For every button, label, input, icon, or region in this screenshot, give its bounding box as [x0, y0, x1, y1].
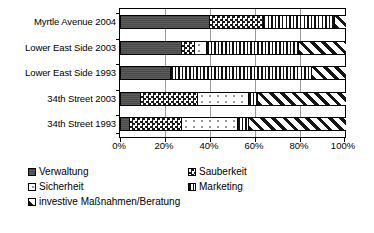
x-tick-label-0: 0% — [112, 140, 126, 151]
bar-track — [120, 66, 345, 80]
chart-legend: Verwaltung Sauberkeit Sicherheit Marketi… — [28, 166, 358, 211]
bar-segment-marketing — [249, 93, 258, 105]
bar-segment-sauberkeit — [130, 118, 182, 130]
x-tick-label-80: 80% — [289, 140, 308, 151]
legend-label-sauberkeit: Sauberkeit — [199, 166, 247, 178]
legend-item-verwaltung: Verwaltung — [28, 166, 88, 178]
y-tick-1 — [116, 39, 120, 40]
bar-segment-investive-ma-nahmen-beratung — [258, 93, 346, 105]
legend-item-investive-massnahmen: investive Maßnahmen/Beratung — [28, 196, 180, 208]
category-label-1: Lower East Side 2003 — [0, 42, 116, 53]
y-tick-0 — [116, 13, 120, 14]
bar-segment-sicherheit — [198, 93, 250, 105]
bar-segment-marketing — [171, 67, 313, 79]
bar-segment-marketing — [238, 118, 249, 130]
x-tick-label-60: 60% — [244, 140, 263, 151]
bar-segment-verwaltung — [121, 67, 171, 79]
category-axis: Myrtle Avenue 2004 Lower East Side 2003 … — [0, 8, 116, 136]
bar-segment-verwaltung — [121, 16, 210, 28]
bar-segment-sauberkeit — [141, 93, 197, 105]
legend-item-marketing: Marketing — [188, 181, 243, 193]
legend-label-sicherheit: Sicherheit — [39, 181, 83, 193]
legend-swatch-sicherheit-icon — [28, 183, 36, 191]
y-tick-5 — [116, 133, 120, 134]
bar-segment-sicherheit — [195, 42, 206, 54]
bar-row — [120, 92, 345, 106]
stacked-bar-chart: Myrtle Avenue 2004 Lower East Side 2003 … — [0, 0, 374, 233]
category-label-4: 34th Street 1993 — [0, 118, 116, 129]
legend-label-verwaltung: Verwaltung — [39, 166, 88, 178]
bar-row — [120, 66, 345, 80]
bar-segment-sicherheit — [182, 118, 238, 130]
bar-row — [120, 117, 345, 131]
bar-segment-marketing — [264, 16, 335, 28]
legend-label-marketing: Marketing — [199, 181, 243, 193]
bar-row — [120, 15, 345, 29]
category-label-3: 34th Street 2003 — [0, 93, 116, 104]
bar-track — [120, 41, 345, 55]
bar-track — [120, 117, 345, 131]
bar-segment-sauberkeit — [182, 42, 196, 54]
category-label-0: Myrtle Avenue 2004 — [0, 16, 116, 27]
category-label-2: Lower East Side 1993 — [0, 67, 116, 78]
y-tick-4 — [116, 115, 120, 116]
y-tick-2 — [116, 64, 120, 65]
bar-segment-investive-ma-nahmen-beratung — [299, 42, 346, 54]
bar-segment-sauberkeit — [210, 16, 264, 28]
legend-item-sauberkeit: Sauberkeit — [188, 166, 247, 178]
bar-segment-verwaltung — [121, 42, 182, 54]
legend-swatch-investive-icon — [28, 198, 36, 206]
bar-segment-investive-ma-nahmen-beratung — [335, 16, 346, 28]
legend-swatch-verwaltung-icon — [28, 168, 36, 176]
bar-segment-investive-ma-nahmen-beratung — [249, 118, 346, 130]
bar-row — [120, 41, 345, 55]
y-tick-3 — [116, 90, 120, 91]
bar-track — [120, 15, 345, 29]
legend-item-sicherheit: Sicherheit — [28, 181, 83, 193]
bar-track — [120, 92, 345, 106]
bar-segment-verwaltung — [121, 118, 130, 130]
legend-swatch-sauberkeit-icon — [188, 168, 196, 176]
bar-segment-investive-ma-nahmen-beratung — [312, 67, 346, 79]
x-tick-label-20: 20% — [154, 140, 173, 151]
legend-swatch-marketing-icon — [188, 183, 196, 191]
plot-area — [119, 8, 346, 138]
x-tick-label-100: 100% — [331, 140, 355, 151]
legend-label-investive-massnahmen: investive Maßnahmen/Beratung — [39, 196, 180, 208]
bar-segment-verwaltung — [121, 93, 141, 105]
x-tick-label-40: 40% — [199, 140, 218, 151]
bar-segment-marketing — [207, 42, 299, 54]
